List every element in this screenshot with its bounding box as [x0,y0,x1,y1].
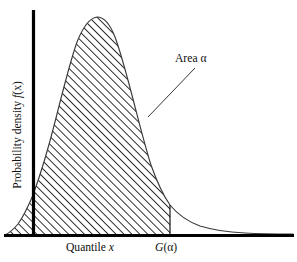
y-axis-label: Probability density f(x) [11,81,24,189]
area-alpha-symbol: α [200,52,206,65]
area-alpha-annotation: Area α [175,52,207,65]
density-plot-svg: Area α Quantile x G(α) Probability densi… [0,0,297,262]
area-alpha-leader-line [148,68,195,117]
area-alpha-prefix: Area [175,52,200,65]
x-axis-label-g-alpha: G(α) [155,241,177,254]
quantile-variable: x [108,241,115,254]
shaded-area-alpha [0,0,297,262]
y-axis-label-prefix: Probability density [11,98,24,189]
y-axis-label-argument: (x) [11,81,24,95]
x-axis-label-quantile: Quantile x [66,241,115,254]
g-alpha-argument: (α) [163,241,177,254]
quantile-prefix: Quantile [66,241,109,254]
probability-density-figure: Area α Quantile x G(α) Probability densi… [0,0,297,262]
